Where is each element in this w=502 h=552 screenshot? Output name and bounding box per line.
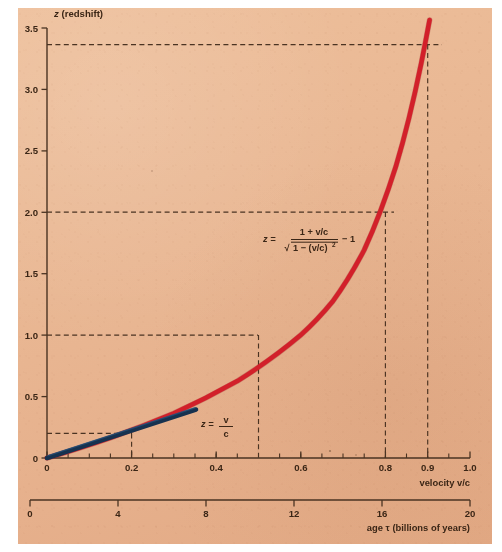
y-tick-label: 2.0 — [25, 207, 38, 218]
y-axis-title-rest: (redshift) — [59, 8, 103, 19]
y-tick-label: 2.5 — [25, 145, 39, 156]
x-axis-age — [30, 500, 470, 507]
classical-linear-line — [47, 408, 196, 458]
formula-denominator-exponent: 2 — [332, 241, 336, 248]
formula-numerator: 1 + v/c — [300, 227, 328, 237]
x-axis-age-title: age τ (billions of years) — [367, 522, 470, 533]
x-axis-velocity-tick-labels: 0 0.2 0.4 0.6 0.8 0.9 1.0 velocity v/c — [44, 462, 476, 488]
relativistic-formula-annotation: z = 1 + v/c √ 1 − (v/c) 2 − 1 — [262, 227, 355, 253]
y-tick-label: 0 — [33, 453, 38, 464]
x-tick-label: 1.0 — [463, 462, 476, 473]
age-tick-label: 16 — [377, 508, 388, 519]
y-tick-label: 3.5 — [25, 23, 39, 34]
age-tick-label: 12 — [289, 508, 300, 519]
x-tick-label: 0 — [44, 462, 49, 473]
x-tick-label: 0.8 — [379, 462, 393, 473]
age-tick-label: 0 — [27, 508, 32, 519]
classical-lhs: z = — [200, 419, 214, 429]
figure-root: 3.5 3.0 2.5 2.0 1.5 1.0 0.5 0 z (redshif… — [0, 0, 502, 552]
svg-text:z (redshift): z (redshift) — [53, 8, 103, 19]
x-tick-label: 0.4 — [210, 462, 224, 473]
classical-formula-annotation: z = v c — [200, 415, 233, 439]
age-tick-label: 8 — [203, 508, 209, 519]
vertical-guide-lines — [132, 45, 428, 458]
y-tick-label: 1.5 — [25, 268, 39, 279]
x-axis-velocity-title: velocity v/c — [419, 477, 470, 488]
classical-numerator: v — [223, 415, 229, 425]
formula-trailing: − 1 — [342, 234, 355, 244]
x-tick-label: 0.6 — [294, 462, 307, 473]
formula-radical-sign: √ — [284, 243, 290, 253]
y-axis-title: z (redshift) — [53, 8, 103, 19]
x-tick-label: 0.2 — [125, 462, 138, 473]
y-axis-tick-labels: 3.5 3.0 2.5 2.0 1.5 1.0 0.5 0 — [25, 23, 39, 464]
y-tick-label: 3.0 — [25, 84, 38, 95]
formula-denominator: 1 − (v/c) — [293, 243, 327, 253]
chart-svg-wrapper: 3.5 3.0 2.5 2.0 1.5 1.0 0.5 0 z (redshif… — [0, 0, 502, 552]
age-tick-label: 20 — [465, 508, 476, 519]
age-tick-label: 4 — [115, 508, 121, 519]
x-tick-label-09: 0.9 — [421, 462, 434, 473]
formula-lhs: z = — [262, 234, 276, 244]
x-axis-age-tick-labels: 0 4 8 12 16 20 age τ (billions of years) — [27, 508, 475, 533]
relativistic-redshift-curve — [47, 20, 430, 458]
classical-denominator: c — [223, 429, 228, 439]
y-tick-label: 0.5 — [25, 391, 39, 402]
y-axis — [42, 28, 48, 458]
y-tick-label: 1.0 — [25, 330, 38, 341]
